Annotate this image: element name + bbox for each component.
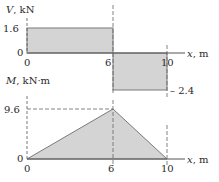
moment-tick-top: 9.6: [4, 104, 20, 115]
shear-xtick-6: 6: [105, 57, 111, 68]
shear-xtick-10: 10: [161, 57, 174, 68]
shear-neg-label: – 2.4: [170, 85, 194, 96]
shear-axis-label: V, kN: [6, 4, 35, 15]
shear-positive-area: [27, 28, 113, 53]
moment-area: [27, 109, 167, 159]
shear-tick-top: 1.6: [3, 23, 19, 34]
diagram-canvas: V, kN 1.6 0 0 6 10 x, m – 2.4 M, kN·m 9.…: [0, 0, 219, 182]
shear-negative-area: [113, 53, 167, 90]
shear-x-label: x, m: [187, 48, 209, 59]
moment-axis-label: M, kN·m: [5, 75, 51, 86]
moment-tick-zero: 0: [17, 153, 23, 164]
moment-xtick-10: 10: [161, 163, 174, 174]
moment-x-label: x, m: [187, 154, 209, 165]
shear-tick-zero: 0: [17, 47, 23, 58]
moment-xtick-6: 6: [108, 163, 114, 174]
moment-xtick-0: 0: [24, 163, 30, 174]
shear-xtick-0: 0: [24, 57, 30, 68]
